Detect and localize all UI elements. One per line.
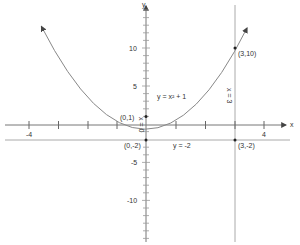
parabola-curve bbox=[42, 27, 248, 130]
point-3-10 bbox=[234, 47, 237, 50]
point-label-0-1: (0,1) bbox=[120, 114, 134, 121]
point-3-neg2 bbox=[234, 139, 237, 142]
tick-label-y-10: 10 bbox=[129, 45, 137, 52]
point-label-0-neg2: (0,-2) bbox=[124, 142, 141, 149]
equation-label-x-3: x = 3 bbox=[226, 88, 233, 103]
equation-label-x-0: x = 0 bbox=[138, 117, 145, 132]
graph-canvas bbox=[0, 0, 300, 245]
tick-label-x-neg4: -4 bbox=[26, 131, 32, 138]
point-0-neg2 bbox=[145, 139, 148, 142]
equation-label-y-neg2: y = -2 bbox=[173, 142, 191, 149]
point-label-3-neg2: (3,-2) bbox=[238, 142, 255, 149]
point-label-3-10: (3,10) bbox=[238, 50, 256, 57]
x-axis-label: x bbox=[290, 121, 294, 128]
y-axis-label: y bbox=[142, 1, 146, 8]
tick-label-y-neg5: -5 bbox=[131, 159, 137, 166]
equation-label-parabola: y = x² + 1 bbox=[157, 93, 186, 100]
tick-label-y-neg10: -10 bbox=[127, 197, 137, 204]
tick-label-y-5: 5 bbox=[133, 83, 137, 90]
tick-label-x-4: 4 bbox=[262, 131, 266, 138]
